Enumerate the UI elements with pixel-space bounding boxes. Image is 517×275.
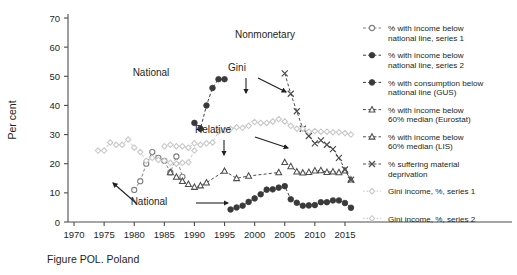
data-point-light-diamond bbox=[324, 129, 329, 134]
data-point-open-triangle bbox=[276, 169, 282, 174]
data-point-filled-circle bbox=[369, 52, 375, 58]
data-point-filled-circle bbox=[318, 199, 324, 205]
figure-poland: 0102030405060701970197519801985199019952… bbox=[0, 0, 517, 275]
data-point-cross bbox=[288, 91, 294, 97]
data-point-open-triangle bbox=[173, 174, 179, 179]
legend-item-4[interactable]: % with income below60% median (LIS) bbox=[363, 133, 464, 151]
data-point-light-diamond bbox=[342, 130, 347, 135]
data-point-filled-circle bbox=[369, 80, 375, 86]
data-point-cross bbox=[282, 70, 288, 76]
data-point-light-diamond bbox=[252, 119, 257, 124]
data-point-open-triangle bbox=[191, 184, 197, 189]
x-tick-label: 1995 bbox=[214, 229, 235, 240]
data-point-open-triangle bbox=[204, 180, 210, 185]
data-point-light-diamond bbox=[107, 140, 112, 145]
legend-item-2[interactable]: % with consumption belownational line (G… bbox=[363, 79, 484, 97]
legend-label-line1: Gini income, %, series 2 bbox=[388, 215, 476, 224]
x-tick-label: 2005 bbox=[274, 229, 295, 240]
data-point-light-diamond bbox=[168, 142, 173, 147]
data-point-open-triangle bbox=[369, 134, 375, 139]
data-point-filled-circle bbox=[228, 207, 234, 213]
data-point-light-diamond bbox=[270, 119, 275, 124]
legend-item-1[interactable]: % with income belownational line, series… bbox=[363, 51, 465, 69]
legend-item-3[interactable]: % with income below60% median (Eurostat) bbox=[363, 106, 471, 124]
data-point-filled-circle bbox=[294, 200, 300, 206]
legend-label-line1: % with income below bbox=[388, 133, 464, 142]
data-point-cross bbox=[336, 155, 342, 161]
data-point-filled-circle bbox=[336, 198, 342, 204]
y-tick-label: 10 bbox=[49, 187, 60, 198]
data-point-light-diamond bbox=[246, 123, 251, 128]
series-income_national_s1 bbox=[132, 149, 185, 192]
annotation-national_lower: National bbox=[131, 196, 168, 207]
data-point-light-diamond bbox=[101, 148, 106, 153]
annotation-nonmonetary: Nonmonetary bbox=[235, 29, 295, 40]
data-point-light-diamond bbox=[168, 160, 173, 165]
series-line bbox=[285, 162, 351, 179]
data-point-light-diamond bbox=[240, 125, 245, 130]
data-point-open-triangle bbox=[234, 175, 240, 180]
plot-layer: 0102030405060701970197519801985199019952… bbox=[6, 13, 512, 241]
data-point-cross bbox=[324, 142, 330, 148]
data-point-light-diamond bbox=[180, 160, 185, 165]
data-point-filled-circle bbox=[330, 198, 336, 204]
data-point-filled-circle bbox=[324, 199, 330, 205]
data-point-light-diamond bbox=[192, 141, 197, 146]
data-point-cross bbox=[318, 137, 324, 143]
data-point-open-triangle bbox=[306, 169, 312, 174]
legend-item-6[interactable]: Gini income, %, series 1 bbox=[363, 187, 476, 196]
y-tick-label: 20 bbox=[49, 158, 60, 169]
data-point-open-triangle bbox=[300, 170, 306, 175]
data-point-filled-circle bbox=[348, 205, 354, 211]
data-point-light-diamond bbox=[276, 116, 281, 121]
data-point-filled-circle bbox=[300, 203, 306, 209]
y-tick-label: 70 bbox=[49, 13, 60, 24]
legend-label-line2: 60% median (LIS) bbox=[388, 142, 453, 151]
y-tick-label: 30 bbox=[49, 129, 60, 140]
legend-label-line2: national line, series 2 bbox=[388, 61, 465, 70]
data-point-light-diamond bbox=[95, 148, 100, 153]
annotation-arrow bbox=[258, 78, 286, 92]
y-tick-label: 0 bbox=[55, 217, 60, 228]
data-point-filled-circle bbox=[234, 205, 240, 211]
legend-label-line1: % with income below bbox=[388, 106, 464, 115]
data-point-filled-circle bbox=[288, 196, 294, 202]
legend-item-0[interactable]: % with income belownational line, series… bbox=[363, 24, 465, 42]
legend-label-line1: Gini income, %, series 1 bbox=[388, 187, 476, 196]
data-point-light-diamond bbox=[174, 161, 179, 166]
data-point-open-circle bbox=[138, 179, 143, 184]
data-point-light-diamond bbox=[336, 130, 341, 135]
x-tick-label: 1980 bbox=[124, 229, 145, 240]
legend-label-line2: national line (GUS) bbox=[388, 88, 457, 97]
data-point-light-diamond bbox=[192, 148, 197, 153]
data-point-light-diamond bbox=[198, 142, 203, 147]
data-point-light-diamond bbox=[186, 160, 191, 165]
legend-item-5[interactable]: % suffering materialdeprivation bbox=[363, 160, 460, 178]
data-point-filled-circle bbox=[240, 203, 246, 209]
data-point-light-diamond bbox=[138, 149, 143, 154]
data-point-open-triangle bbox=[369, 107, 375, 112]
data-point-cross bbox=[312, 140, 318, 146]
data-point-light-diamond bbox=[330, 130, 335, 135]
data-point-filled-circle bbox=[270, 187, 276, 193]
series-income_national_s2 bbox=[228, 183, 354, 212]
annotation-gini: Gini bbox=[228, 62, 246, 73]
data-point-open-triangle bbox=[185, 181, 191, 186]
data-point-cross bbox=[330, 146, 336, 152]
data-point-light-diamond bbox=[348, 132, 353, 137]
data-point-open-triangle bbox=[336, 169, 342, 174]
data-point-open-triangle bbox=[222, 168, 228, 173]
x-tick-label: 1985 bbox=[154, 229, 175, 240]
legend-label-line2: deprivation bbox=[388, 170, 428, 179]
data-point-open-circle bbox=[132, 187, 137, 192]
legend-label-line1: % with consumption below bbox=[388, 79, 484, 88]
data-point-open-triangle bbox=[282, 159, 288, 164]
data-point-filled-circle bbox=[210, 85, 216, 91]
data-point-open-triangle bbox=[288, 163, 294, 168]
data-point-light-diamond bbox=[162, 144, 167, 149]
chart-legend: % with income belownational line, series… bbox=[363, 24, 484, 223]
data-point-light-diamond bbox=[312, 128, 317, 133]
data-point-light-diamond bbox=[204, 141, 209, 146]
annotation-arrow bbox=[255, 137, 288, 148]
legend-label-line1: % with income below bbox=[388, 51, 464, 60]
